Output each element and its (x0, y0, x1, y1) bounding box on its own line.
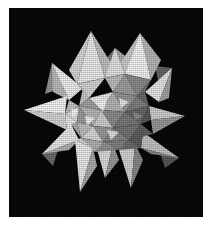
rendered-image-plate (9, 8, 203, 217)
figure-frame: Grayscale rendering of a stellated polyh… (0, 0, 214, 228)
stellated-polyhedron-figure (9, 8, 203, 217)
